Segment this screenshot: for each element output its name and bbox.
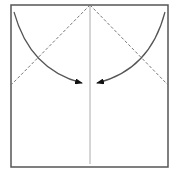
origami-diagram xyxy=(0,0,171,176)
